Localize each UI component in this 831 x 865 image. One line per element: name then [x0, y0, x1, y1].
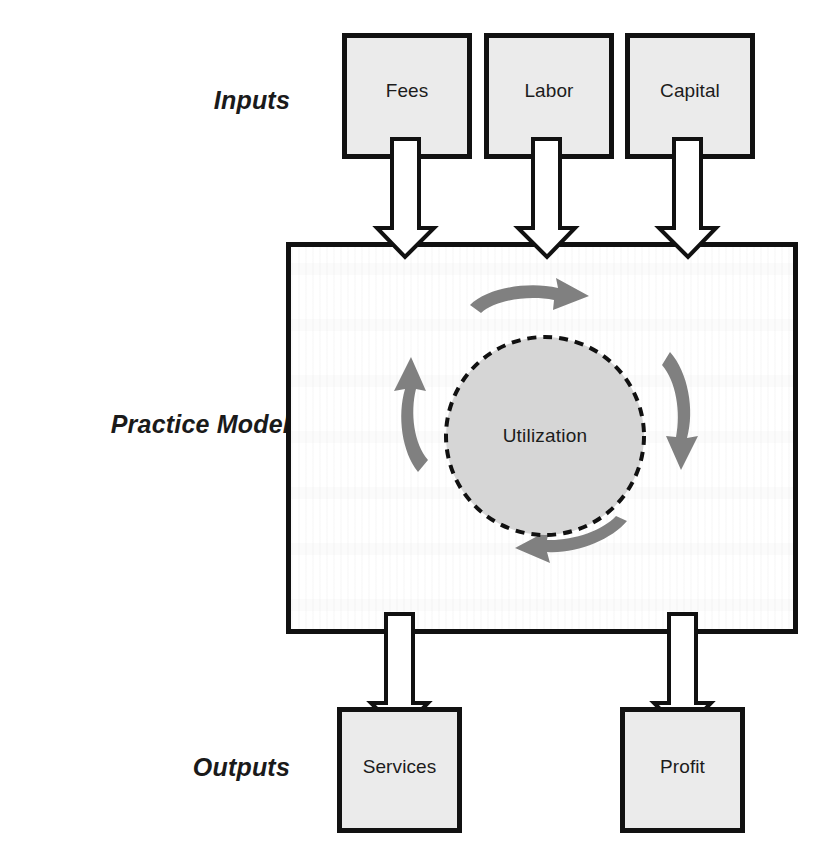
output-box-profit-label: Profit: [660, 757, 705, 776]
input-box-capital[interactable]: Capital: [625, 33, 755, 159]
input-box-fees[interactable]: Fees: [342, 33, 472, 159]
utilization-circle-shape: [446, 337, 644, 535]
input-box-fees-label: Fees: [386, 81, 429, 100]
output-box-profit[interactable]: Profit: [620, 707, 745, 833]
output-box-services-label: Services: [363, 757, 437, 776]
input-box-labor[interactable]: Labor: [484, 33, 614, 159]
section-label-inputs: Inputs: [40, 88, 290, 113]
input-box-capital-label: Capital: [660, 81, 720, 100]
practice-model-diagram: Inputs Practice Model Outputs Fees Labor…: [0, 0, 831, 865]
input-box-labor-label: Labor: [524, 81, 573, 100]
section-label-outputs: Outputs: [40, 755, 290, 780]
utilization-circle[interactable]: [441, 332, 649, 540]
section-label-practice-model: Practice Model: [10, 412, 290, 437]
output-box-services[interactable]: Services: [337, 707, 462, 833]
